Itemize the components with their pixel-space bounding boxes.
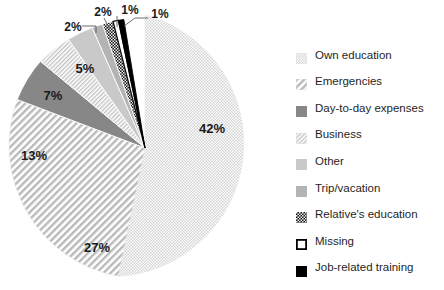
legend-label-missing: Missing xyxy=(315,236,354,248)
legend-swatch-own-education xyxy=(296,50,307,61)
callout-value-trip-vacation: 2% xyxy=(64,20,82,34)
legend-label-relatives-education: Relative's education xyxy=(315,209,418,221)
legend-item-job-related-training[interactable]: Job-related training xyxy=(296,255,444,282)
callout-value-missing: 1% xyxy=(121,3,139,17)
legend-swatch-job-related-training xyxy=(296,263,307,274)
pie-slices xyxy=(9,15,244,276)
legend-swatch-day-to-day-expenses xyxy=(296,103,307,114)
slice-value-emergencies: 27% xyxy=(84,240,110,255)
legend-item-business[interactable]: Business xyxy=(296,122,444,149)
legend-swatch-emergencies xyxy=(296,76,307,87)
chart-legend: Own education Emergencies Day-to-day exp… xyxy=(296,42,444,281)
legend-swatch-other xyxy=(296,156,307,167)
legend-item-own-education[interactable]: Own education xyxy=(296,42,444,69)
leader-line-job-related-training xyxy=(124,18,148,26)
legend-item-trip-vacation[interactable]: Trip/vacation xyxy=(296,175,444,202)
slice-value-other: 5% xyxy=(76,61,95,76)
legend-item-emergencies[interactable]: Emergencies xyxy=(296,69,444,96)
legend-swatch-business xyxy=(296,130,307,141)
slice-value-business: 7% xyxy=(44,88,63,103)
legend-swatch-relatives-education xyxy=(296,209,307,220)
legend-label-job-related-training: Job-related training xyxy=(315,262,413,274)
legend-label-day-to-day-expenses: Day-to-day expenses xyxy=(315,103,424,115)
pie-chart-plot-area: 42% 27% 13% 7% 5% 2% 2% 1% 1% xyxy=(0,0,290,290)
slice-value-day-to-day-expenses: 13% xyxy=(21,148,47,163)
slice-value-own-education: 42% xyxy=(199,121,225,136)
pie-chart-svg: 42% 27% 13% 7% 5% 2% 2% 1% 1% xyxy=(0,0,290,290)
legend-item-other[interactable]: Other xyxy=(296,148,444,175)
legend-label-trip-vacation: Trip/vacation xyxy=(315,183,380,195)
legend-item-missing[interactable]: Missing xyxy=(296,228,444,255)
legend-item-day-to-day-expenses[interactable]: Day-to-day expenses xyxy=(296,95,444,122)
legend-label-own-education: Own education xyxy=(315,50,392,62)
legend-swatch-trip-vacation xyxy=(296,183,307,194)
callout-value-job-related-training: 1% xyxy=(151,7,169,21)
legend-swatch-missing xyxy=(296,236,307,247)
legend-label-emergencies: Emergencies xyxy=(315,76,382,88)
legend-label-other: Other xyxy=(315,156,344,168)
callout-value-relatives-education: 2% xyxy=(94,5,112,19)
legend-item-relatives-education[interactable]: Relative's education xyxy=(296,202,444,229)
legend-label-business: Business xyxy=(315,129,362,141)
pie-chart-figure: 42% 27% 13% 7% 5% 2% 2% 1% 1% Own ed xyxy=(0,0,444,290)
